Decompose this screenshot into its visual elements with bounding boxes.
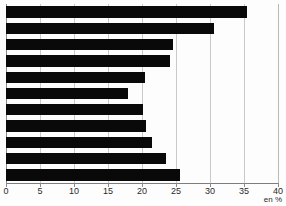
bar-row <box>6 6 278 17</box>
bar-row <box>6 55 278 66</box>
tick-label-10: 10 <box>69 186 79 196</box>
bar-series <box>6 4 278 183</box>
tick-label-15: 15 <box>103 186 113 196</box>
x-axis-tick-labels: 0510152025303540 <box>0 186 286 200</box>
bar-3 <box>6 39 173 50</box>
bar-row <box>6 72 278 83</box>
bar-10 <box>6 153 166 164</box>
bar-7 <box>6 104 143 115</box>
bar-row <box>6 23 278 34</box>
bar-8 <box>6 120 146 131</box>
bar-5 <box>6 72 145 83</box>
bar-2 <box>6 23 214 34</box>
tick-label-30: 30 <box>205 186 215 196</box>
tick-label-5: 5 <box>37 186 42 196</box>
tick-label-25: 25 <box>171 186 181 196</box>
plot-area <box>6 4 278 183</box>
bar-1 <box>6 6 247 17</box>
bar-row <box>6 88 278 99</box>
tick-label-20: 20 <box>137 186 147 196</box>
x-axis-unit-label: en % <box>264 195 282 204</box>
bar-row <box>6 120 278 131</box>
bar-row <box>6 104 278 115</box>
bar-6 <box>6 88 128 99</box>
bar-4 <box>6 55 170 66</box>
tick-label-35: 35 <box>239 186 249 196</box>
bar-row <box>6 39 278 50</box>
bar-row <box>6 137 278 148</box>
gridline-40 <box>278 4 279 183</box>
bar-11 <box>6 169 180 180</box>
tick-label-0: 0 <box>3 186 8 196</box>
bar-chart: 0510152025303540 en % <box>0 0 286 206</box>
bar-row <box>6 169 278 180</box>
bar-row <box>6 153 278 164</box>
bar-9 <box>6 137 152 148</box>
